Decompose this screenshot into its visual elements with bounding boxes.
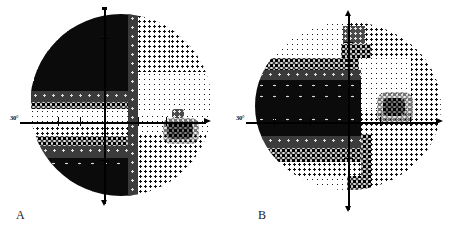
field-grey-transition-superior <box>31 91 134 102</box>
axis-cap-top-a <box>102 7 107 10</box>
axis-arrow-up-b <box>345 10 351 16</box>
axis-arrow-down-a <box>101 200 107 206</box>
field-heavy-stipple-band-bottom-b <box>261 148 361 162</box>
panel-letter-a: A <box>16 208 25 223</box>
axis-arrow-down-b <box>345 206 351 212</box>
panel-letter-b: B <box>258 208 266 223</box>
field-black-step-1 <box>82 14 134 22</box>
field-heavy-stipple-band-top-b <box>259 58 359 70</box>
field-grey-band-bottom-b <box>257 136 361 148</box>
field-level-2-far-upper-temporal <box>170 24 212 70</box>
axis-tick-h-4-b <box>410 117 411 126</box>
field-black-step-11 <box>50 188 134 196</box>
field-light-band-above-meridian <box>30 109 134 123</box>
field-black-band-tail-b <box>257 126 361 136</box>
field-black-speckled-inferior <box>34 158 134 170</box>
field-black-step-10 <box>42 179 134 188</box>
axis-tick-h-4-a <box>166 117 167 126</box>
horizontal-axis-a <box>20 122 206 124</box>
axis-tick-v-1-b <box>344 42 353 43</box>
axis-tick-v-1-a <box>100 38 109 39</box>
vertical-axis-b <box>348 14 350 210</box>
field-black-step-8 <box>31 81 134 91</box>
panel-a: 30° A <box>0 0 228 244</box>
axis-degree-label-a: 30° <box>10 114 18 121</box>
blind-spot-upper-fragment-a <box>172 109 184 118</box>
axis-tick-h-1-b <box>274 117 275 126</box>
visual-field-figure: 30° A <box>0 0 456 244</box>
blind-spot-halo-b <box>377 92 413 124</box>
panel-b: 30° B <box>228 0 456 244</box>
field-heavy-stipple-superior <box>31 102 134 109</box>
field-medium-band-bottom-b <box>267 162 361 176</box>
field-black-step-4 <box>50 40 134 49</box>
field-black-step-3 <box>58 31 134 40</box>
axis-arrow-right-b <box>436 118 443 124</box>
axis-tick-v-2-a <box>100 160 109 161</box>
axis-tick-h-3-b <box>380 117 381 126</box>
axis-tick-v-2-b <box>344 158 353 159</box>
axis-tick-h-3-a <box>138 117 139 126</box>
axis-tick-h-2-b <box>310 117 311 126</box>
field-heavy-stipple-inferior <box>32 136 134 146</box>
field-black-step-5 <box>43 49 134 59</box>
field-heavy-stipple-superior-b <box>341 44 371 58</box>
axis-arrow-right-a <box>204 118 211 124</box>
field-vertical-meridian-transition <box>128 14 138 196</box>
axis-degree-label-b: 30° <box>236 114 244 121</box>
field-medium-band-below-meridian <box>30 126 134 136</box>
field-black-step-left-b <box>263 80 273 126</box>
field-black-step-9 <box>36 170 134 179</box>
axis-tick-h-1-a <box>58 117 59 126</box>
field-grey-band-top-b <box>257 70 361 80</box>
field-black-step-2 <box>68 22 134 31</box>
field-black-step-6 <box>38 59 134 69</box>
field-grey-transition-inferior <box>32 146 134 158</box>
visual-field-plot-a <box>30 14 212 196</box>
axis-tick-h-2-a <box>80 117 81 126</box>
field-black-step-7 <box>34 69 134 81</box>
